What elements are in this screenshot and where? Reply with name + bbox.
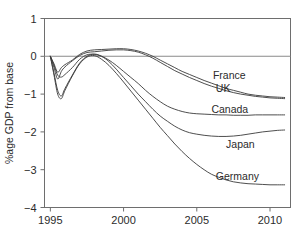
x-tick-label-0: 1995 [38, 214, 62, 226]
y-tick-label-0: 1 [30, 13, 36, 25]
x-tick-label-1: 2000 [111, 214, 135, 226]
chart-background [0, 0, 306, 239]
x-tick-label-2: 2005 [185, 214, 209, 226]
y-tick-label-2: −1 [24, 88, 37, 100]
y-axis-title-text: %age GDP from base [3, 62, 15, 164]
x-tick-label-3: 2010 [258, 214, 282, 226]
y-tick-label-1: 0 [30, 50, 36, 62]
series-label-france: France [213, 69, 246, 81]
chart-figure: 1995200020052010 10−1−2−3−4 FranceUKCana… [0, 0, 306, 239]
series-label-germany: Germany [216, 170, 260, 182]
y-axis-title: %age GDP from base [3, 62, 15, 164]
series-label-japan: Japan [226, 138, 255, 150]
line-chart: 1995200020052010 10−1−2−3−4 FranceUKCana… [0, 0, 306, 239]
y-tick-label-3: −2 [24, 126, 37, 138]
y-tick-label-4: −3 [24, 164, 37, 176]
series-label-uk: UK [216, 82, 231, 94]
y-tick-label-5: −4 [24, 202, 37, 214]
series-label-canada: Canada [211, 103, 248, 115]
